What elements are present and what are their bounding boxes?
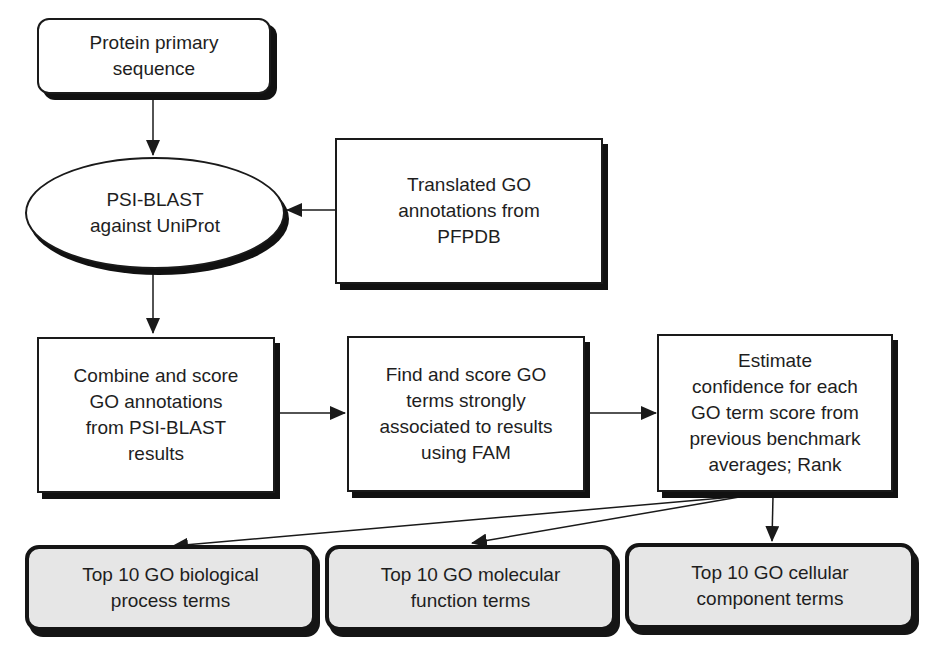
node-label-line: against UniProt [90, 213, 220, 239]
node-estimate-confidence: Estimate confidence for each GO term sco… [657, 334, 893, 492]
node-label-line: function terms [381, 588, 561, 614]
node-protein-primary-sequence: Protein primary sequence [37, 18, 271, 94]
node-label-line: from PSI-BLAST [74, 415, 239, 441]
node-label-line: confidence for each [689, 374, 860, 400]
node-top10-molecular-function: Top 10 GO molecular function terms [325, 545, 616, 631]
node-label-line: GO annotations [74, 389, 239, 415]
node-label-line: associated to results [379, 414, 552, 440]
node-label-line: GO term score from [689, 400, 860, 426]
node-psi-blast-uniprot: PSI-BLAST against UniProt [25, 157, 285, 269]
node-top10-cellular-component: Top 10 GO cellular component terms [625, 543, 915, 629]
node-label-line: process terms [82, 588, 258, 614]
node-find-and-score-fam: Find and score GO terms strongly associa… [347, 336, 585, 492]
node-label-line: PFPDB [398, 224, 540, 250]
node-label-line: previous benchmark [689, 426, 860, 452]
node-label-line: Combine and score [74, 363, 239, 389]
node-top10-biological-process: Top 10 GO biological process terms [25, 545, 316, 631]
node-combine-and-score: Combine and score GO annotations from PS… [37, 337, 275, 493]
node-label-line: sequence [90, 56, 219, 82]
edge-estimate-to-mf [472, 496, 745, 543]
node-label-line: results [74, 441, 239, 467]
node-label-line: Estimate [689, 348, 860, 374]
node-label-line: annotations from [398, 198, 540, 224]
node-label-line: Top 10 GO biological [82, 562, 258, 588]
node-label-line: Protein primary [90, 30, 219, 56]
node-label-line: using FAM [379, 440, 552, 466]
node-label-line: averages; Rank [689, 452, 860, 478]
node-translated-go-pfpdb: Translated GO annotations from PFPDB [335, 138, 603, 284]
edge-estimate-to-cc [772, 496, 773, 541]
node-label-line: Translated GO [398, 172, 540, 198]
node-label-line: terms strongly [379, 388, 552, 414]
node-label-line: Top 10 GO cellular [691, 560, 848, 586]
node-label-line: Find and score GO [379, 362, 552, 388]
node-label-line: PSI-BLAST [90, 187, 220, 213]
edge-estimate-to-bp [173, 496, 745, 546]
node-label-line: component terms [691, 586, 848, 612]
node-label-line: Top 10 GO molecular [381, 562, 561, 588]
